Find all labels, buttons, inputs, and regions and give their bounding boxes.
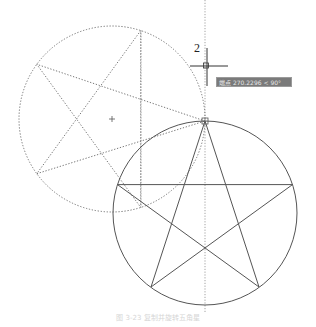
drawing-canvas[interactable] (0, 0, 316, 327)
figure-caption: 图 3-23 复制并旋转五角星 (0, 314, 316, 323)
dimension-label: 2 (194, 42, 200, 54)
center-mark-icon (109, 116, 115, 122)
rotated-star-dotted (37, 31, 205, 208)
dynamic-input-tooltip: 端点 270.2296 < 90° (216, 77, 292, 87)
